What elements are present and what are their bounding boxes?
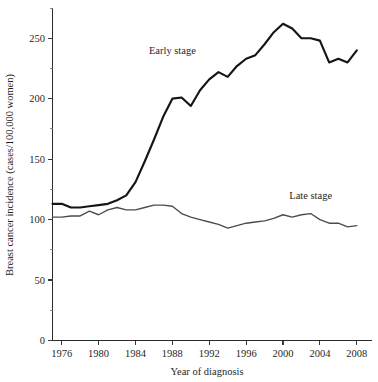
x-axis-title: Year of diagnosis xyxy=(170,366,243,377)
x-tick-label: 2000 xyxy=(273,348,294,359)
series-line-early-stage xyxy=(53,24,357,208)
x-tick-label: 1988 xyxy=(162,348,183,359)
y-tick-label: 0 xyxy=(40,335,45,346)
x-tick-label: 1984 xyxy=(125,348,147,359)
x-tick-label: 1980 xyxy=(88,348,109,359)
series-line-late-stage xyxy=(53,205,357,228)
chart-figure: 050100150200250 197619801984198819921996… xyxy=(0,0,378,382)
x-tick-label: 1996 xyxy=(236,348,257,359)
chart-axes xyxy=(53,8,373,341)
series-label-early-stage: Early stage xyxy=(149,45,196,56)
x-tick-label: 2004 xyxy=(309,348,331,359)
y-tick-label: 150 xyxy=(29,154,45,165)
y-tick-label: 250 xyxy=(29,33,45,44)
x-tick-label: 1976 xyxy=(51,348,72,359)
x-tick-label: 2008 xyxy=(346,348,367,359)
y-tick-label: 50 xyxy=(35,275,46,286)
x-axis-tick-labels: 197619801984198819921996200020042008 xyxy=(51,348,367,359)
y-tick-label: 100 xyxy=(29,214,45,225)
series-annotations: Early stageLate stage xyxy=(149,45,333,201)
line-chart: 050100150200250 197619801984198819921996… xyxy=(0,0,378,382)
y-axis-tick-labels: 050100150200250 xyxy=(29,33,45,346)
y-tick-label: 200 xyxy=(29,93,45,104)
x-tick-label: 1992 xyxy=(199,348,220,359)
y-axis-title: Breast cancer incidence (cases/100,000 w… xyxy=(4,73,16,276)
series-label-late-stage: Late stage xyxy=(289,190,332,201)
chart-tick-marks xyxy=(48,8,357,345)
